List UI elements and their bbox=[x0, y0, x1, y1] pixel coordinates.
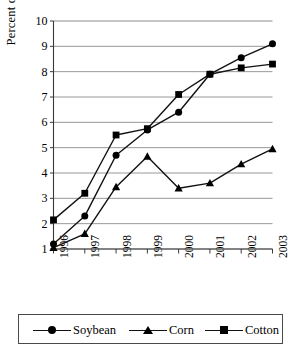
data-point-square bbox=[144, 125, 151, 132]
data-point-circle bbox=[113, 152, 120, 159]
data-point-circle bbox=[269, 40, 276, 47]
data-point-circle bbox=[81, 213, 88, 220]
data-point-triangle bbox=[143, 152, 151, 159]
plot-area bbox=[0, 0, 303, 355]
data-point-square bbox=[81, 190, 88, 197]
data-point-circle bbox=[238, 54, 245, 61]
data-point-triangle bbox=[206, 179, 214, 186]
data-point-square bbox=[113, 132, 120, 139]
chart-legend: SoybeanCornCotton bbox=[18, 314, 283, 344]
x-tick-marks bbox=[54, 249, 273, 254]
legend-entry-soybean[interactable]: Soybean bbox=[33, 321, 116, 339]
legend-label: Cotton bbox=[243, 323, 279, 337]
legend-entry-cotton[interactable]: Cotton bbox=[205, 321, 279, 339]
data-point-square bbox=[207, 71, 214, 78]
data-point-square bbox=[269, 61, 276, 68]
data-point-circle bbox=[175, 109, 182, 116]
legend-label: Corn bbox=[167, 323, 194, 337]
series-corn bbox=[49, 145, 276, 251]
legend-marker-triangle-icon bbox=[129, 323, 167, 337]
chart-figure: Percent of Planted Area 12345678910 1996… bbox=[0, 0, 303, 355]
data-point-square bbox=[175, 91, 182, 98]
legend-label: Soybean bbox=[71, 323, 116, 337]
data-point-triangle bbox=[268, 145, 276, 152]
data-point-square bbox=[50, 216, 57, 223]
data-point-triangle bbox=[237, 160, 245, 167]
data-point-square bbox=[238, 64, 245, 71]
legend-entry-corn[interactable]: Corn bbox=[129, 321, 194, 339]
legend-marker-square-icon bbox=[205, 323, 243, 337]
series-cotton bbox=[50, 61, 276, 224]
legend-marker-circle-icon bbox=[33, 323, 71, 337]
